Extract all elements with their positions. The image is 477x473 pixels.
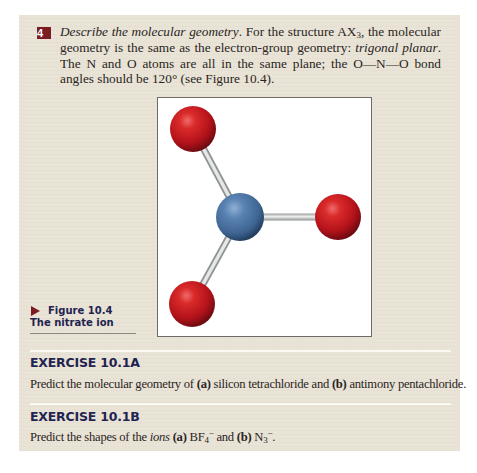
exercise-heading-10-1a: EXERCISE 10.1A [30, 355, 140, 370]
step-text: Describe the molecular geometry. For the… [37, 24, 441, 87]
section-divider-2 [30, 403, 451, 405]
step-lead: Describe the molecular geometry [60, 24, 239, 39]
nitrogen-atom-central [216, 193, 264, 241]
oxygen-atom-upper [170, 106, 216, 152]
figure-title: The nitrate ion [30, 317, 138, 329]
exercise-heading-10-1b: EXERCISE 10.1B [30, 409, 140, 424]
section-divider-1 [30, 350, 451, 352]
oxygen-atom-right [315, 194, 361, 240]
nitrate-ion-figure [157, 97, 372, 337]
step-number-badge: 4 [37, 27, 51, 39]
exercise-text-10-1b: Predict the shapes of the ions (a) BF4− … [30, 430, 460, 445]
caption-arrow-icon [31, 306, 40, 316]
figure-caption: Figure 10.4 The nitrate ion [30, 305, 138, 328]
nitrate-molecule-model [158, 98, 371, 336]
step-4-paragraph: 4 Describe the molecular geometry. For t… [37, 24, 441, 87]
exercise-text-10-1a: Predict the molecular geometry of (a) si… [30, 377, 460, 392]
figure-number: Figure 10.4 [30, 305, 138, 317]
caption-divider [30, 333, 136, 334]
worked-example-panel: 4 Describe the molecular geometry. For t… [19, 15, 460, 451]
oxygen-atom-lower [169, 281, 215, 327]
